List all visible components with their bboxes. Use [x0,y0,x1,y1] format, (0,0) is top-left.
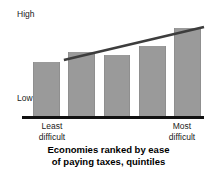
plot-area [28,18,204,118]
x-axis-left-label-line2: difficult [31,132,73,143]
bar-quintile-4 [139,46,166,118]
bar-quintile-1 [33,62,60,118]
bar-quintile-5 [174,28,201,118]
x-axis-right-category-label: Most difficult [160,121,204,142]
x-axis-left-label-line1: Least [31,121,73,132]
x-axis-left-category-label: Least difficult [31,121,73,142]
chart-caption-line2: of paying taxes, quintiles [0,156,217,168]
x-axis-right-label-line1: Most [160,121,204,132]
bar-quintile-2 [68,52,95,118]
chart-caption: Economies ranked by ease of paying taxes… [0,144,217,167]
x-axis-right-label-line2: difficult [160,132,204,143]
bar-quintile-3 [104,55,131,118]
chart-caption-line1: Economies ranked by ease [0,144,217,156]
chart-figure: High Low Least difficult Most difficult … [0,0,217,170]
x-axis-baseline [22,116,204,119]
